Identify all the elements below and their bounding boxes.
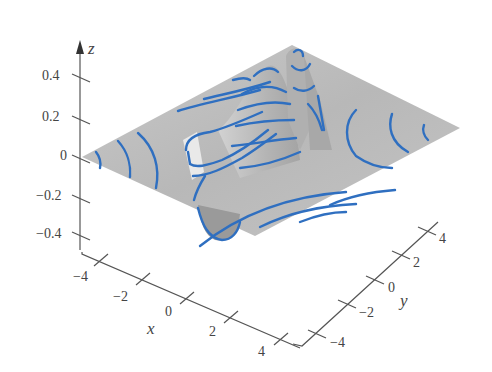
z-axis-label: z: [87, 39, 95, 58]
z-axis: 0.4 0.2 0 −0.2 −0.4 z: [36, 39, 95, 250]
z-tick-label: 0.4: [42, 68, 60, 83]
z-axis-arrow-icon: [76, 40, 84, 54]
y-tick-label: 0: [388, 280, 395, 295]
x-tick-label: −4: [73, 269, 88, 284]
x-axis-label: x: [146, 319, 155, 338]
z-tick-label: −0.4: [36, 226, 61, 241]
z-tick-label: 0.2: [42, 109, 60, 124]
x-axis: −4 −2 0 2 4 x: [73, 252, 300, 359]
surface-plot-figure: 0.4 0.2 0 −0.2 −0.4 z: [0, 0, 492, 372]
x-tick-label: 2: [209, 324, 216, 339]
surface: [82, 45, 460, 241]
y-tick-label: −4: [330, 335, 345, 350]
z-tick-label: −0.2: [36, 188, 61, 203]
z-tick-label: 0: [60, 148, 67, 163]
y-tick-label: −2: [359, 305, 374, 320]
x-tick-label: 4: [258, 344, 265, 359]
y-tick-label: 2: [413, 255, 420, 270]
x-tick-label: −2: [113, 289, 128, 304]
y-axis-label: y: [398, 291, 408, 310]
y-tick-label: 4: [439, 231, 446, 246]
y-axis: −4 −2 0 2 4 y: [293, 222, 446, 350]
surface-plot-svg: 0.4 0.2 0 −0.2 −0.4 z: [0, 0, 492, 372]
x-tick-label: 0: [165, 304, 172, 319]
